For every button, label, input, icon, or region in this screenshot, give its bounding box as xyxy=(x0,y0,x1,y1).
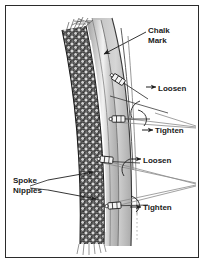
label-loosen-upper: Loosen xyxy=(158,84,186,94)
rotation-arc-ccw xyxy=(131,101,140,118)
label-tighten-upper: Tighten xyxy=(155,126,184,136)
wheel-truing-figure: Chalk Mark Loosen Tighten Loosen Tighten… xyxy=(0,0,204,263)
tire-bottom-fray xyxy=(77,244,106,255)
label-spoke-nipples: Spoke Nipples xyxy=(13,176,42,195)
label-loosen-lower: Loosen xyxy=(143,156,171,166)
label-chalk-mark: Chalk Mark xyxy=(148,26,170,45)
label-tighten-lower: Tighten xyxy=(143,203,172,213)
